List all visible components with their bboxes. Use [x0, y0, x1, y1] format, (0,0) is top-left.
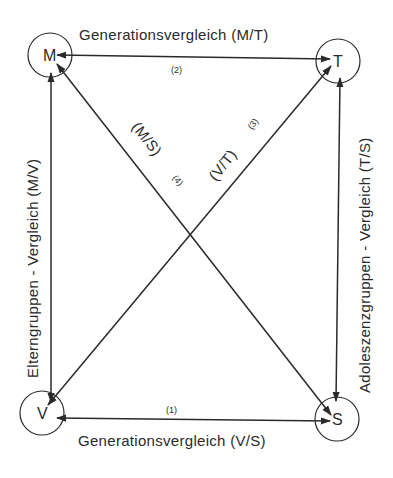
node-v: V	[20, 391, 64, 435]
edge-diagonal-ms-arrow	[57, 64, 331, 415]
comparison-diagram: M T V S Generationsvergleich (M/T) (2) G…	[0, 0, 393, 478]
node-m-label: M	[43, 47, 56, 64]
edge-bottom-arrow	[57, 418, 330, 421]
edge-right-arrow	[336, 78, 340, 401]
edge-left-label: Elterngruppen - Vergleich (M/V)	[24, 159, 41, 378]
edge-diagonal-ms-label: (M/S)	[129, 118, 166, 159]
edge-top-arrow	[57, 55, 330, 59]
edge-bottom-label: Generationsvergleich (V/S)	[78, 432, 266, 449]
edge-top-label: Generationsvergleich (M/T)	[79, 26, 269, 43]
edge-diagonal-vt-arrow	[48, 66, 331, 405]
edge-diagonal-ms-number: (4)	[170, 173, 185, 188]
edge-bottom-number: (1)	[166, 405, 177, 415]
edge-right-label: Adoleszenzgruppen - Vergleich (T/S)	[356, 137, 373, 393]
node-v-label: V	[37, 405, 48, 422]
node-s-label: S	[332, 411, 343, 428]
edge-diagonal-vt-label: (V/T)	[205, 146, 240, 184]
edge-top-number: (2)	[171, 65, 182, 75]
node-t-label: T	[333, 53, 343, 70]
edge-diagonal-vt-number: (3)	[246, 116, 261, 131]
